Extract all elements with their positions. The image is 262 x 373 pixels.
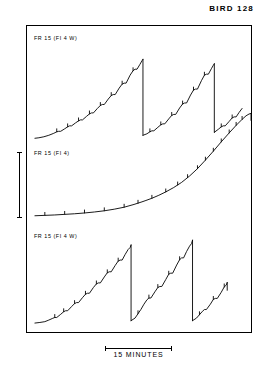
x-axis-label: 15 MINUTES: [105, 351, 172, 358]
reinforcement-ticks-panel-0: [57, 68, 232, 132]
trace-panel-0: [35, 59, 242, 138]
reinforcement-ticks-panel-2: [55, 257, 224, 318]
x-axis-scale-group: 15 MINUTES: [105, 348, 172, 358]
x-axis-scale-bar: [105, 348, 172, 349]
reinforcement-ticks-panel-1: [45, 116, 242, 215]
subject-header-label: BIRD 128: [209, 4, 254, 13]
panel-label-top: FR 15 (FI 4 W): [34, 35, 77, 41]
cumulative-record-figure: BIRD 128: [0, 0, 262, 373]
panel-label-bottom: FR 15 (FI 4 W): [34, 233, 77, 239]
y-axis-scale-bar: [19, 152, 20, 218]
cumulative-trace-svg: [27, 26, 251, 332]
panel-label-middle: FR 15 (FI 4): [34, 150, 70, 156]
plot-frame: [26, 25, 252, 333]
